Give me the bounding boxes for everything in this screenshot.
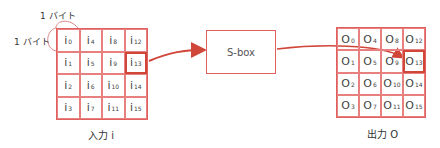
arrow-input-to-sbox	[149, 50, 203, 61]
output-cell-5: O5	[359, 50, 381, 72]
byte-top-label: 1 バイト	[40, 9, 76, 22]
output-cell-4: O4	[359, 28, 381, 50]
output-state-grid: O0O4O8O12O1O5O9O13O2O6O10O14O3O7O11O15	[336, 27, 426, 118]
input-cell-7: i7	[80, 97, 103, 120]
input-cell-11: i11	[102, 97, 125, 120]
input-cell-3: i3	[57, 97, 80, 120]
input-cell-9: i9	[102, 52, 125, 75]
input-cell-15: i15	[125, 97, 148, 120]
output-cell-15: O15	[403, 95, 425, 117]
output-cell-13: O13	[403, 50, 425, 72]
output-cell-10: O10	[381, 73, 403, 95]
output-cell-7: O7	[359, 95, 381, 117]
input-cell-6: i6	[80, 74, 103, 97]
input-caption: 入力 i	[88, 127, 114, 142]
input-cell-13: i13	[125, 52, 148, 75]
output-cell-2: O2	[337, 73, 359, 95]
input-cell-4: i4	[80, 29, 103, 52]
input-cell-0: i0	[57, 29, 80, 52]
sbox-block: S-box	[206, 30, 276, 74]
output-cell-14: O14	[403, 73, 425, 95]
output-cell-0: O0	[337, 28, 359, 50]
output-cell-11: O11	[381, 95, 403, 117]
byte-top-arc	[56, 21, 78, 28]
output-cell-3: O3	[337, 95, 359, 117]
input-cell-8: i8	[102, 29, 125, 52]
input-cell-12: i12	[125, 29, 148, 52]
output-cell-9: O9	[381, 50, 403, 72]
input-cell-10: i10	[102, 74, 125, 97]
input-cell-5: i5	[80, 52, 103, 75]
input-state-grid: i0i4i8i12i1i5i9i13i2i6i10i14i3i7i11i15	[56, 28, 148, 120]
input-cell-14: i14	[125, 74, 148, 97]
output-cell-1: O1	[337, 50, 359, 72]
input-cell-2: i2	[57, 74, 80, 97]
output-caption: 出力 O	[367, 126, 398, 141]
output-cell-8: O8	[381, 28, 403, 50]
output-cell-12: O12	[403, 28, 425, 50]
sbox-label: S-box	[227, 47, 255, 58]
output-cell-6: O6	[359, 73, 381, 95]
byte-left-label: 1 バイト	[14, 35, 50, 48]
input-cell-1: i1	[57, 52, 80, 75]
